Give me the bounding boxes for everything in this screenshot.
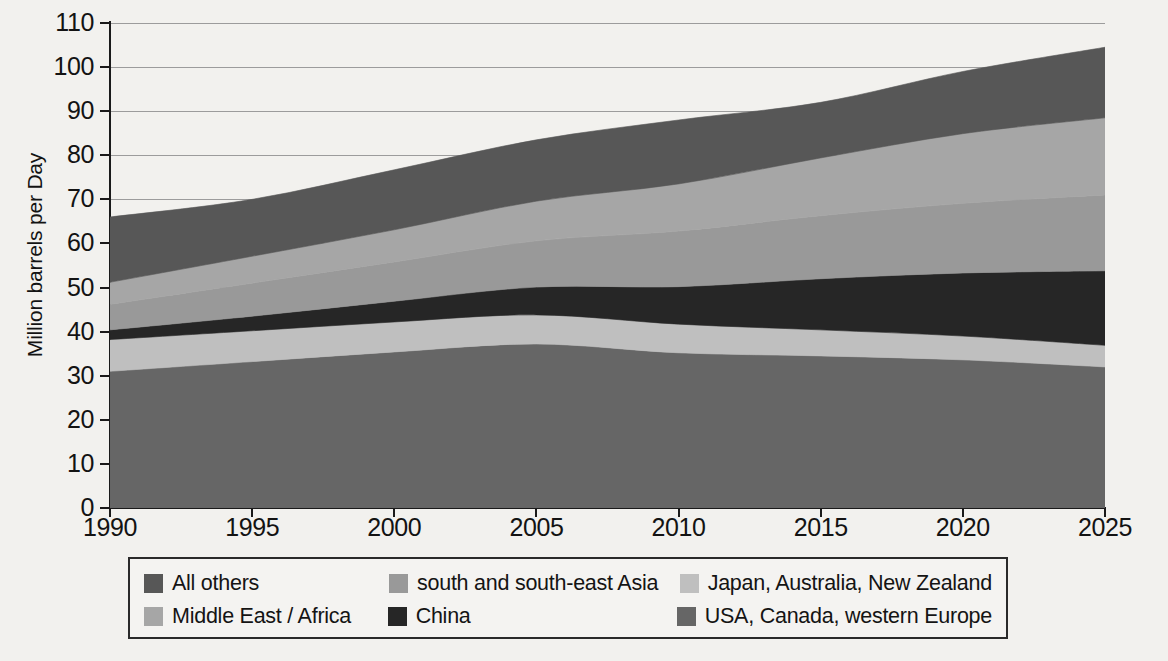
x-tick-label-2005: 2005 bbox=[471, 515, 601, 540]
y-tick-label-20: 20 bbox=[8, 407, 94, 432]
x-tick-label-2020: 2020 bbox=[898, 515, 1028, 540]
y-tick-mark-10 bbox=[100, 463, 109, 465]
y-tick-label-60: 60 bbox=[8, 230, 94, 255]
y-tick-label-40: 40 bbox=[8, 319, 94, 344]
legend-item[interactable]: Middle East / Africa bbox=[144, 600, 388, 633]
y-tick-mark-20 bbox=[100, 419, 109, 421]
legend-row: All otherssouth and south-east AsiaJapan… bbox=[144, 567, 992, 600]
stacked-area-chart: Million barrels per Day 1101009080706050… bbox=[0, 0, 1168, 548]
y-tick-mark-110 bbox=[100, 22, 109, 24]
x-tick-label-2025: 2025 bbox=[1040, 515, 1168, 540]
legend-item[interactable]: All others bbox=[144, 567, 389, 600]
y-tick-mark-40 bbox=[100, 331, 109, 333]
legend-swatch-icon bbox=[144, 574, 163, 593]
x-tick-label-1990: 1990 bbox=[45, 515, 175, 540]
y-tick-mark-100 bbox=[100, 66, 109, 68]
legend-item[interactable]: south and south-east Asia bbox=[389, 567, 680, 600]
legend-label: All others bbox=[172, 572, 259, 595]
y-tick-mark-80 bbox=[100, 154, 109, 156]
y-tick-label-110: 110 bbox=[8, 10, 94, 35]
legend-item[interactable]: USA, Canada, western Europe bbox=[677, 600, 992, 633]
x-tick-label-2010: 2010 bbox=[614, 515, 744, 540]
y-tick-mark-60 bbox=[100, 242, 109, 244]
legend-label: USA, Canada, western Europe bbox=[705, 605, 992, 628]
legend-item[interactable]: Japan, Australia, New Zealand bbox=[680, 567, 992, 600]
y-tick-label-70: 70 bbox=[8, 186, 94, 211]
y-tick-label-30: 30 bbox=[8, 363, 94, 388]
y-tick-label-50: 50 bbox=[8, 275, 94, 300]
y-tick-label-10: 10 bbox=[8, 451, 94, 476]
chart-legend: All otherssouth and south-east AsiaJapan… bbox=[128, 557, 1008, 639]
y-tick-mark-70 bbox=[100, 198, 109, 200]
legend-row: Middle East / AfricaChinaUSA, Canada, we… bbox=[144, 600, 992, 633]
legend-swatch-icon bbox=[388, 607, 407, 626]
y-tick-mark-0 bbox=[100, 507, 109, 509]
x-tick-label-1995: 1995 bbox=[187, 515, 317, 540]
legend-swatch-icon bbox=[680, 574, 699, 593]
y-tick-label-80: 80 bbox=[8, 142, 94, 167]
legend-label: Japan, Australia, New Zealand bbox=[708, 572, 992, 595]
y-tick-mark-90 bbox=[100, 110, 109, 112]
legend-swatch-icon bbox=[389, 574, 408, 593]
y-tick-mark-30 bbox=[100, 375, 109, 377]
legend-label: China bbox=[416, 605, 471, 628]
y-tick-label-90: 90 bbox=[8, 98, 94, 123]
legend-swatch-icon bbox=[144, 607, 163, 626]
x-tick-label-2015: 2015 bbox=[756, 515, 886, 540]
legend-swatch-icon bbox=[677, 607, 696, 626]
legend-label: south and south-east Asia bbox=[417, 572, 658, 595]
y-tick-label-100: 100 bbox=[8, 54, 94, 79]
legend-item[interactable]: China bbox=[388, 600, 677, 633]
area-series-0 bbox=[110, 344, 1105, 508]
chart-root: Million barrels per Day 1101009080706050… bbox=[0, 0, 1168, 661]
legend-label: Middle East / Africa bbox=[172, 605, 351, 628]
area-series-svg bbox=[110, 23, 1105, 508]
x-tick-label-2000: 2000 bbox=[329, 515, 459, 540]
y-tick-mark-50 bbox=[100, 287, 109, 289]
plot-area bbox=[110, 23, 1105, 508]
